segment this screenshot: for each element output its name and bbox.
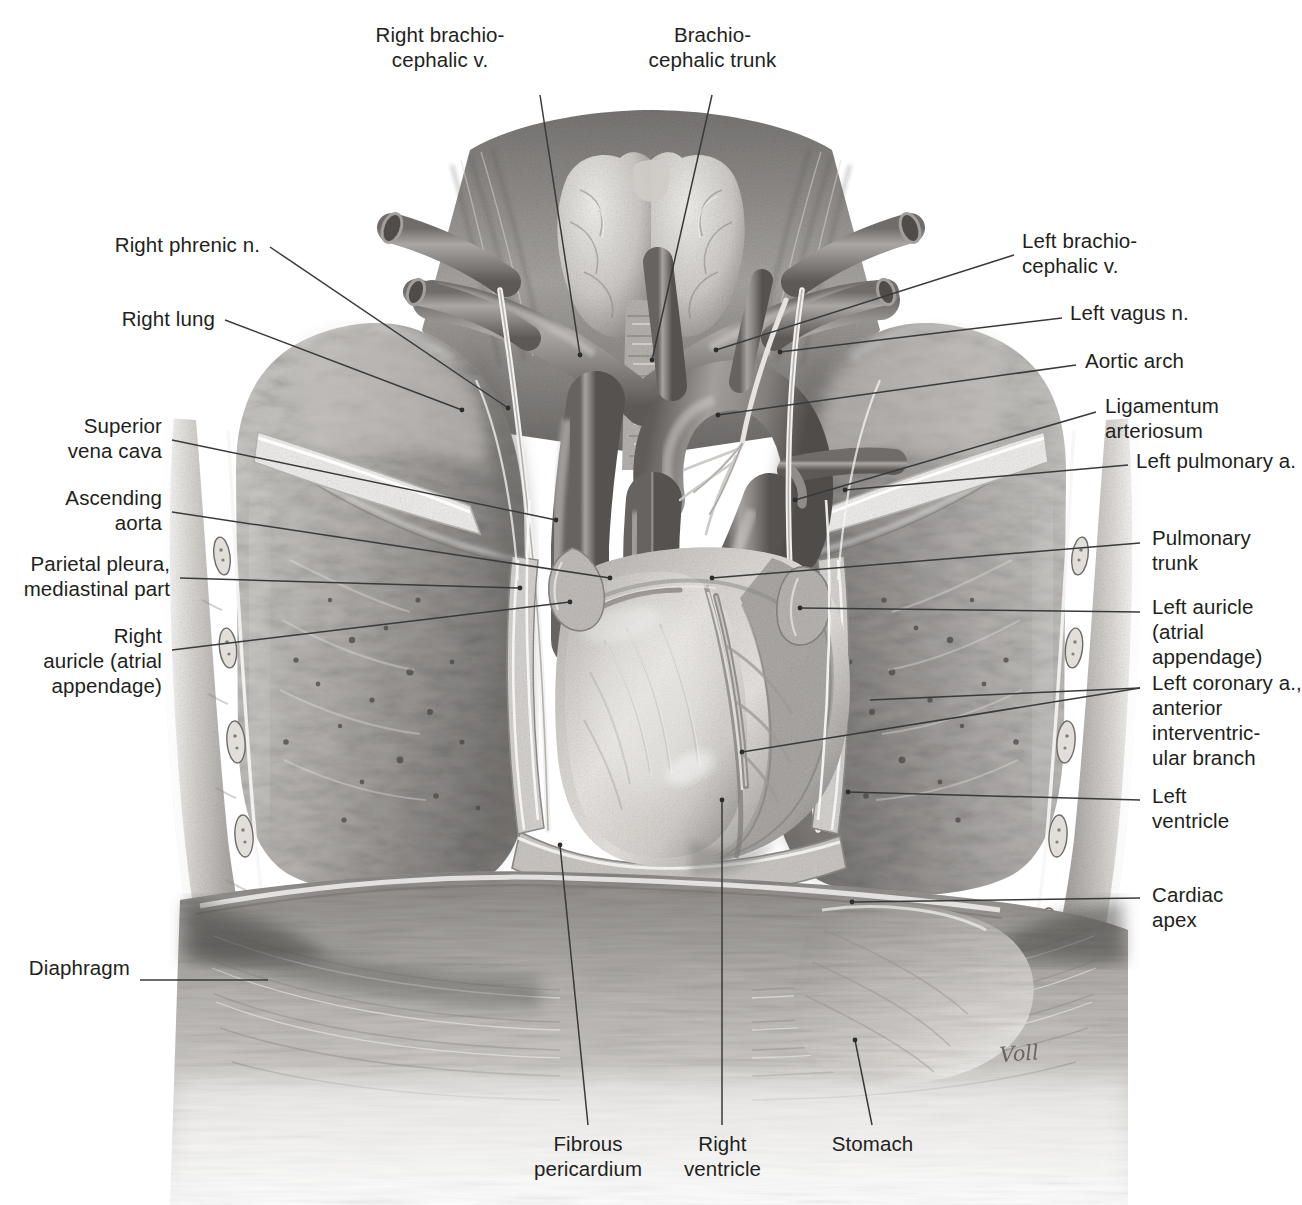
label-superior-vena-cava: Superior vena cava <box>0 413 162 463</box>
label-left-brachiocephalic-vein: Left brachio- cephalic v. <box>1022 228 1302 278</box>
label-right-ventricle: Right ventricle <box>655 1131 790 1181</box>
label-right-lung: Right lung <box>0 306 215 331</box>
label-left-coronary-artery: Left coronary a., anterior interventric-… <box>1152 670 1302 770</box>
label-pulmonary-trunk: Pulmonary trunk <box>1152 525 1302 575</box>
label-cardiac-apex: Cardiac apex <box>1152 882 1302 932</box>
label-stomach: Stomach <box>805 1131 940 1156</box>
label-left-auricle: Left auricle (atrial appendage) <box>1152 594 1302 669</box>
label-left-ventricle: Left ventricle <box>1152 783 1302 833</box>
label-aortic-arch: Aortic arch <box>1085 348 1300 373</box>
label-right-brachiocephalic-vein: Right brachio- cephalic v. <box>330 22 550 72</box>
illustrator-signature: Voll <box>999 1040 1040 1067</box>
label-ascending-aorta: Ascending aorta <box>0 485 162 535</box>
left-pulmonary-artery <box>790 460 894 470</box>
label-parietal-pleura: Parietal pleura, mediastinal part <box>0 551 170 601</box>
label-diaphragm: Diaphragm <box>0 955 130 980</box>
anatomical-illustration: Voll <box>0 0 1302 1205</box>
left-auricle-atrial-appendage <box>777 567 831 645</box>
label-left-vagus-nerve: Left vagus n. <box>1070 300 1300 325</box>
label-right-auricle: Right auricle (atrial appendage) <box>0 623 162 698</box>
label-ligamentum-arteriosum: Ligamentum arteriosum <box>1105 393 1300 443</box>
label-brachiocephalic-trunk: Brachio- cephalic trunk <box>600 22 825 72</box>
label-right-phrenic-nerve: Right phrenic n. <box>0 232 260 257</box>
label-left-pulmonary-artery: Left pulmonary a. <box>1136 448 1302 473</box>
